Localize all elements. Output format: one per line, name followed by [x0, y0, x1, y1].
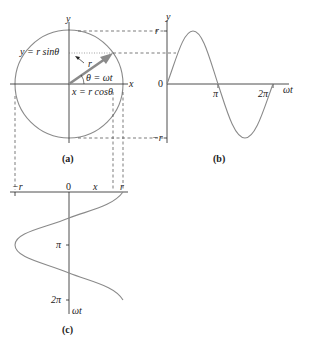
theta-equals-omega-t: θ = ωt	[86, 73, 113, 83]
c-tick-r: r	[120, 182, 124, 192]
b-tick-2pi: 2π	[258, 89, 268, 99]
b-tick-r: r	[155, 26, 159, 36]
r-vector-label: r⃗	[88, 59, 100, 69]
b-tick-neg-r: −r	[152, 133, 163, 143]
c-tick-neg-r: −r	[12, 182, 23, 192]
x-equals-r-cos-theta: x = r cosθ	[72, 87, 113, 97]
c-tick-2pi: 2π	[51, 295, 61, 305]
c-tick-zero: 0	[66, 182, 71, 192]
sine-curve	[167, 31, 273, 138]
panel-c-caption: (c)	[62, 324, 73, 335]
c-tick-pi: π	[56, 240, 61, 250]
b-y-axis-label: y	[166, 12, 170, 22]
b-tick-pi: π	[213, 89, 218, 99]
rotation-direction	[78, 58, 84, 63]
panel-a-caption: (a)	[62, 153, 74, 164]
b-tick-zero: 0	[158, 79, 163, 89]
panel-b-caption: (b)	[213, 153, 225, 164]
c-y-axis-label: ωt	[72, 306, 82, 316]
a-y-axis-label: y	[66, 14, 70, 24]
b-x-axis-label: ωt	[283, 85, 293, 95]
a-x-axis-label: x	[129, 79, 133, 89]
c-x-axis-label: x	[93, 182, 97, 192]
y-equals-r-sin-theta: y = r sinθ	[20, 47, 59, 57]
panel-b-graphics	[164, 20, 289, 143]
panel-c-graphics	[10, 192, 128, 314]
